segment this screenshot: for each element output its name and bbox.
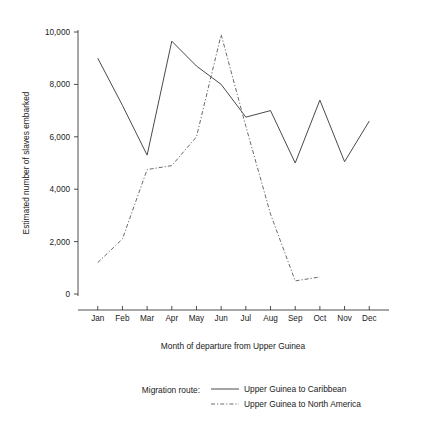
y-tick-label: 6,000: [50, 133, 71, 142]
legend-label-caribbean: Upper Guinea to Caribbean: [244, 384, 347, 394]
x-tick-label: Jan: [91, 314, 105, 323]
x-tick-label: May: [189, 314, 205, 323]
x-tick-label: Feb: [115, 314, 130, 323]
y-tick-label: 8,000: [50, 80, 71, 89]
x-tick-label: Nov: [337, 314, 352, 323]
y-axis-title: Estimated number of slaves embarked: [21, 91, 31, 234]
legend-title: Migration route:: [142, 385, 200, 395]
x-tick-label: Jul: [241, 314, 252, 323]
y-tick-label: 0: [65, 290, 70, 299]
x-tick-label: Dec: [362, 314, 377, 323]
x-axis-title: Month of departure from Upper Guinea: [161, 341, 306, 351]
y-tick-label: 10,000: [45, 28, 70, 37]
chart-figure: 02,0004,0006,0008,00010,000 JanFebMarApr…: [0, 0, 430, 422]
x-tick-label: Apr: [165, 314, 178, 323]
x-axis-ticks: JanFebMarAprMayJunJulAugSepOctNovDec: [91, 306, 376, 323]
x-tick-label: Jun: [215, 314, 229, 323]
x-tick-label: Sep: [288, 314, 303, 323]
series-line-caribbean: [98, 41, 370, 163]
x-tick-label: Oct: [314, 314, 327, 323]
legend-label-north-america: Upper Guinea to North America: [244, 399, 361, 409]
y-tick-label: 4,000: [50, 185, 71, 194]
x-tick-label: Mar: [140, 314, 154, 323]
y-axis-ticks: 02,0004,0006,0008,00010,000: [45, 28, 78, 299]
x-tick-label: Aug: [263, 314, 278, 323]
series-line-north-america: [98, 35, 320, 281]
line-chart-svg: 02,0004,0006,0008,00010,000 JanFebMarApr…: [0, 0, 430, 422]
chart-legend: Migration route: Upper Guinea to Caribbe…: [142, 384, 361, 409]
y-tick-label: 2,000: [50, 238, 71, 247]
